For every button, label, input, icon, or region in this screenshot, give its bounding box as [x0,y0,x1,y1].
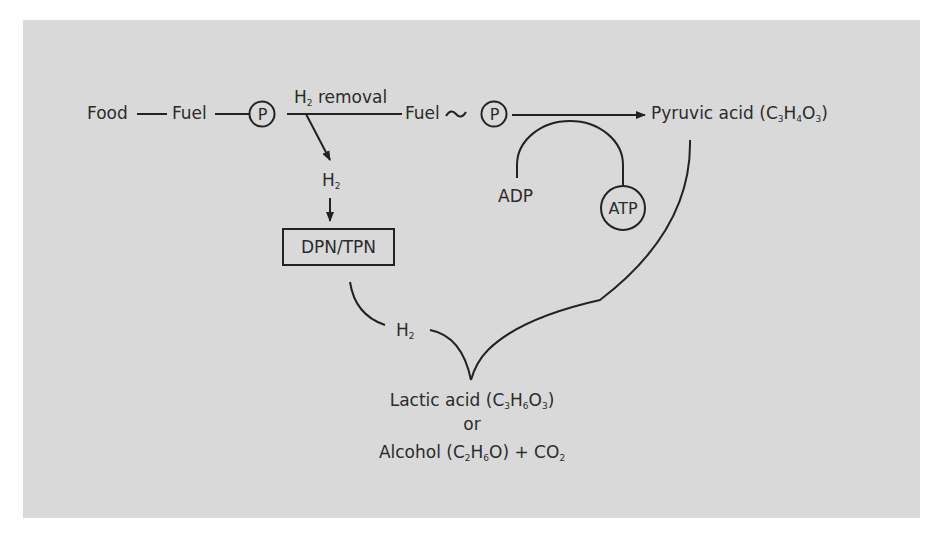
node-atp: ATP [601,186,645,230]
h2-junction-curve [430,330,471,380]
node-lactic-acid: Lactic acid (C3H6O3) [390,392,555,411]
node-alcohol: Alcohol (C2H6O) + CO2 [379,444,565,463]
node-h2-return: H2 [396,322,415,341]
dpn-to-h2-curve [350,282,385,325]
h2-branch-arrow [306,114,330,160]
adp-atp-arch [517,121,623,186]
phosphate-label-1: P [250,102,275,127]
node-food: Food [87,105,128,122]
node-pyruvic-acid: Pyruvic acid (C3H4O3) [651,105,828,124]
or-label: or [463,416,480,433]
node-fuel-1: Fuel [172,105,207,122]
node-adp: ADP [498,188,533,205]
h2-removal-label: H2 removal [294,89,387,108]
node-h2-branch: H2 [322,172,341,191]
tilde-high-energy-bond [446,111,466,116]
node-dpn-tpn: DPN/TPN [282,228,395,266]
pyruvic-junction-curve [471,140,690,380]
node-fuel-2: Fuel [405,105,440,122]
phosphate-label-2: P [482,102,507,127]
